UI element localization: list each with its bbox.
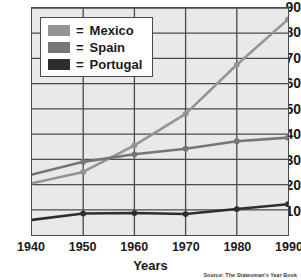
data-point-mexico-1980 <box>234 62 240 68</box>
x-axis-tick-label: 1940 <box>8 241 54 254</box>
line-chart: 908070605040302010 =Mexico=Spain=Portuga… <box>0 0 301 280</box>
data-point-spain-1990 <box>285 135 288 141</box>
legend-equals-sign: = <box>76 58 84 71</box>
legend-item-mexico: =Mexico <box>48 23 142 37</box>
legend-item-portugal: =Portugal <box>48 57 142 71</box>
legend-equals-sign: = <box>76 41 84 54</box>
data-point-portugal-1980 <box>234 206 240 212</box>
x-axis-title: Years <box>0 258 301 273</box>
legend-label-mexico: Mexico <box>90 24 134 37</box>
legend-label-portugal: Portugal <box>90 58 143 71</box>
x-axis-tick-label: 1970 <box>163 241 209 254</box>
data-point-spain-1980 <box>234 138 240 144</box>
data-point-portugal-1970 <box>183 211 189 217</box>
data-point-mexico-1970 <box>183 111 189 117</box>
legend-swatch-spain <box>48 42 70 53</box>
data-point-mexico-1950 <box>80 169 86 175</box>
legend-swatch-mexico <box>48 25 70 36</box>
data-point-portugal-1960 <box>132 210 138 216</box>
series-line-portugal <box>32 204 288 220</box>
data-point-spain-1970 <box>183 146 189 152</box>
legend-equals-sign: = <box>76 24 84 37</box>
series-line-spain <box>32 138 288 175</box>
x-axis-tick-label: 1960 <box>111 241 157 254</box>
data-point-portugal-1950 <box>80 211 86 217</box>
source-note: Source: The Statesman's Year Book <box>0 272 297 278</box>
x-axis-tick-label: 1980 <box>214 241 260 254</box>
x-axis-tick-label: 1990 <box>266 241 301 254</box>
data-point-spain-1950 <box>80 159 86 165</box>
legend-swatch-portugal <box>48 59 70 70</box>
data-point-mexico-1960 <box>132 143 138 149</box>
legend-label-spain: Spain <box>90 41 125 54</box>
legend: =Mexico=Spain=Portugal <box>40 17 153 77</box>
legend-item-spain: =Spain <box>48 40 142 54</box>
data-point-portugal-1990 <box>285 201 288 207</box>
x-axis-tick-label: 1950 <box>60 241 106 254</box>
data-point-spain-1960 <box>132 151 138 157</box>
